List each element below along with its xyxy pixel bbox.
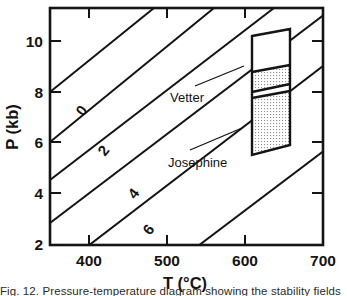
field-box-group — [252, 29, 290, 155]
y-tick-label-8: 8 — [34, 84, 43, 101]
x-tick-label-500: 500 — [154, 252, 180, 269]
contour-line-unlabeled-lower — [88, 56, 336, 246]
field-label-josephine: Josephine — [168, 155, 227, 170]
y-tick-label-2: 2 — [34, 236, 43, 253]
x-tick-label-700: 700 — [310, 252, 336, 269]
contour-label-2: 2 — [94, 142, 113, 159]
y-tick-label-6: 6 — [34, 134, 43, 151]
contour-label-6: 6 — [139, 221, 158, 238]
contour-line-4 — [50, 8, 274, 180]
field-label-vetter: Vetter — [170, 90, 205, 105]
y-axis-tick-labels: 10 8 6 4 2 — [26, 33, 44, 253]
chart-canvas: Vetter Josephine 0 2 4 6 — [0, 0, 347, 296]
vetter-leader-line — [195, 66, 244, 86]
x-tick-label-600: 600 — [232, 252, 258, 269]
contour-line-0 — [50, 8, 154, 92]
y-axis-title: P (kb) — [3, 104, 21, 150]
x-axis-top-ticks — [89, 8, 245, 18]
y-axis-ticks — [50, 41, 61, 193]
pressure-temperature-figure: Vetter Josephine 0 2 4 6 — [0, 0, 347, 296]
x-axis-ticks — [89, 235, 245, 245]
contour-label-0: 0 — [72, 102, 91, 119]
contour-line-group — [50, 8, 336, 246]
x-tick-label-400: 400 — [76, 252, 102, 269]
y-axis-right-ticks — [312, 41, 323, 193]
figure-caption-fragment: Fig. 12. Pressure-temperature diagram sh… — [0, 285, 347, 296]
y-tick-label-4: 4 — [34, 185, 43, 202]
x-axis-tick-labels: 400 500 600 700 — [76, 252, 336, 269]
contour-label-4: 4 — [124, 184, 143, 202]
contour-line-2 — [50, 8, 214, 142]
y-tick-label-10: 10 — [26, 33, 43, 50]
